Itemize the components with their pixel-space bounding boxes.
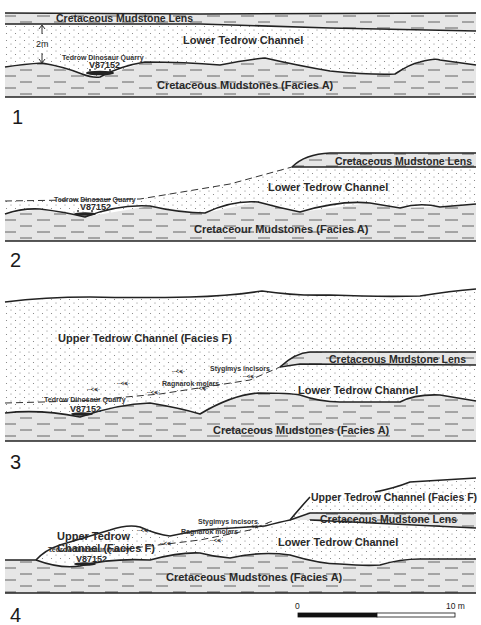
svg-text:-·≺≼·: -·≺≼· xyxy=(87,386,100,392)
lens-label: Cretaceous Mudstone Lens xyxy=(329,353,466,365)
lower-channel-label: Lower Tedrow Channel xyxy=(298,384,418,396)
upper-channel-label: Upper Tedrow Channel (Facies F) xyxy=(58,332,232,344)
panel-number-2: 2 xyxy=(10,249,21,271)
stygimys-label: Stygimys incisors xyxy=(198,518,258,526)
locality-label: V87152 xyxy=(76,554,107,564)
lower-channel-label: Lower Tedrow Channel xyxy=(278,536,398,548)
quarry-label: Tedrow Dinosaur Quarry xyxy=(48,546,130,554)
ragnarok-label: Ragnarok molars xyxy=(181,528,238,536)
quarry-label: Tedrow Dinosaur Quarry xyxy=(44,396,126,404)
upper-channel-left-label-line1: Upper Tedrow xyxy=(57,530,131,542)
panel-number-3: 3 xyxy=(10,451,21,473)
locality-label: V87152 xyxy=(80,202,111,212)
mudstones-label: Cretaceous Mudstones (Facies A) xyxy=(157,79,334,91)
lens-label: Cretaceous Mudstone Lens xyxy=(320,513,457,525)
lens-label: Cretaceous Mudstone Lens xyxy=(335,155,472,167)
panel-number-4: 4 xyxy=(10,604,21,625)
panel-1: 2m Cretaceous Mudstone Lens Lower Tedrow… xyxy=(5,12,476,128)
locality-label: V87152 xyxy=(89,60,120,70)
locality-label: V87152 xyxy=(70,404,101,414)
ragnarok-label: Ragnarok molars xyxy=(162,380,219,388)
lower-channel-label: Lower Tedrow Channel xyxy=(268,181,388,193)
panel-2: Cretaceous Mudstone Lens Lower Tedrow Ch… xyxy=(5,153,476,271)
stygimys-label: Stygimys incisors xyxy=(210,365,270,373)
lower-channel-label: Lower Tedrow Channel xyxy=(183,34,303,46)
svg-text:-·≺≼·: -·≺≼· xyxy=(172,368,185,374)
mudstones-label: Cretaceous Mudstones (Facies A) xyxy=(213,424,390,436)
scale-bar-start-label: 0 xyxy=(295,601,300,611)
svg-text:-·≺≼·: -·≺≼· xyxy=(137,527,150,533)
lens-label: Cretaceous Mudstone Lens xyxy=(56,12,193,24)
mudstones-label: Cretaceous Mudstones (Facies A) xyxy=(166,571,343,583)
scale-bar-end-label: 10 m xyxy=(446,601,465,611)
svg-text:-·≺≼·: -·≺≼· xyxy=(210,537,223,543)
mudstones-label: Cretaceour Mudstones (Facies A) xyxy=(194,223,369,235)
svg-text:-·≺≼·: -·≺≼· xyxy=(160,540,173,546)
scale-2m-label: 2m xyxy=(36,39,49,49)
upper-channel-right-label: Upper Tedrow Channel (Facies F) xyxy=(311,491,477,503)
scale-bar: 0 10 m xyxy=(295,601,465,617)
panel-3: -·≺≼· -·≺≼· -·≺≼· -·≺≼· -·≺≼· -·≺≼· Uppe… xyxy=(5,289,476,473)
svg-text:-·≺≼·: -·≺≼· xyxy=(147,389,160,395)
svg-text:-·≺≼·: -·≺≼· xyxy=(243,373,256,379)
panel-4: -·≺≼· -·≺≼· -·≺≼· -·≺≼· Upper Tedrow Cha… xyxy=(5,478,477,625)
panel-number-1: 1 xyxy=(12,106,23,128)
svg-text:-·≺≼·: -·≺≼· xyxy=(117,380,130,386)
stratigraphic-diagram: 2m Cretaceous Mudstone Lens Lower Tedrow… xyxy=(0,0,481,625)
